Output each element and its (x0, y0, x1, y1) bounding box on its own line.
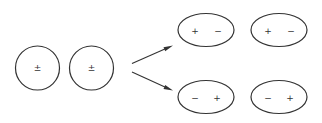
circle-charge-label: ± (34, 63, 42, 73)
ellipse-top-1: + − (178, 14, 234, 47)
charge-right: + (286, 93, 294, 103)
charge-right: − (214, 26, 222, 36)
ellipse-outline (178, 81, 234, 114)
initial-state: ± ± (16, 46, 114, 90)
outcome-bottom: − + − + (178, 81, 307, 114)
charge-right: + (213, 93, 221, 103)
charge-left: − (264, 93, 272, 103)
charge-right: − (287, 26, 295, 36)
circle-2: ± (70, 46, 114, 90)
ellipse-outline (178, 14, 234, 47)
arrow-up-icon (132, 46, 173, 64)
circle-charge-label: ± (88, 63, 96, 73)
charge-left: + (264, 26, 272, 36)
arrow-down-icon (132, 72, 173, 91)
charge-left: − (191, 93, 199, 103)
ellipse-outline (251, 14, 307, 47)
outcome-top: + − + − (178, 14, 307, 47)
ellipse-top-2: + − (251, 14, 307, 47)
arrows (132, 46, 173, 91)
circle-1: ± (16, 46, 60, 90)
ellipse-outline (251, 81, 307, 114)
ellipse-bottom-1: − + (178, 81, 234, 114)
charge-left: + (191, 26, 199, 36)
ellipse-bottom-2: − + (251, 81, 307, 114)
polarization-diagram: ± ± + − + − − (0, 0, 322, 123)
